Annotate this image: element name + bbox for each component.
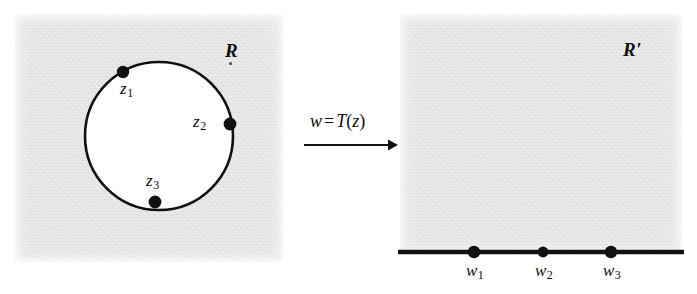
- point-label-z2-subscript: 2: [200, 119, 207, 133]
- point-label-z1-base: z: [120, 79, 127, 98]
- point-label-z1: z1: [120, 80, 133, 99]
- point-z1-marker: [117, 66, 129, 78]
- point-label-w1-base: w: [466, 261, 477, 280]
- point-label-z2-base: z: [193, 112, 200, 131]
- point-label-w2: w2: [535, 262, 553, 281]
- mapping-function: T: [336, 111, 346, 131]
- region-label-R: R: [225, 41, 238, 60]
- region-label-R-prime: R′: [623, 40, 642, 59]
- point-z2-marker: [224, 118, 237, 131]
- point-label-w1: w1: [466, 262, 484, 281]
- circle-diagram: [15, 14, 283, 262]
- mapping-arrow-icon: [300, 136, 400, 154]
- point-label-z1-subscript: 1: [127, 86, 134, 100]
- mapping-close-paren: ): [359, 111, 365, 131]
- mapping-label: w=T(z): [310, 112, 365, 130]
- point-label-z3-base: z: [146, 171, 153, 190]
- point-w3-marker: [605, 246, 617, 258]
- mapping-operator: =: [322, 111, 336, 131]
- point-label-z2: z2: [193, 113, 206, 132]
- point-label-w3-base: w: [603, 261, 614, 280]
- point-label-z3: z3: [146, 172, 159, 191]
- point-label-z3-subscript: 3: [153, 178, 160, 192]
- point-label-w2-base: w: [535, 261, 546, 280]
- real-axis-diagram: [392, 230, 690, 260]
- mapping-lhs: w: [310, 111, 322, 131]
- mapping-figure: R z1 z2 z3 w=T(z) R′ w1 w2 w3: [0, 0, 697, 294]
- point-label-w2-subscript: 2: [546, 268, 553, 282]
- point-z3-marker: [149, 196, 162, 209]
- point-w2-marker: [538, 247, 549, 258]
- point-label-w3-subscript: 3: [614, 268, 621, 282]
- scan-speck: [229, 62, 232, 65]
- point-label-w1-subscript: 1: [477, 268, 484, 282]
- point-w1-marker: [468, 246, 480, 258]
- point-label-w3: w3: [603, 262, 621, 281]
